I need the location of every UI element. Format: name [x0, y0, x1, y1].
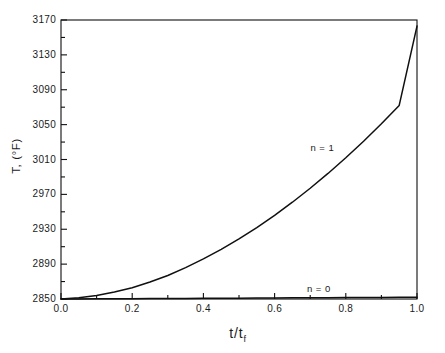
- plot-frame-rect: [61, 20, 417, 299]
- x-axis-title: t/tf: [178, 325, 298, 344]
- x-tick-label: 0.6: [255, 303, 295, 314]
- y-tick-label: 3050: [16, 119, 56, 130]
- curve-label: n = 1: [310, 142, 334, 153]
- chart-series-group: [61, 26, 417, 299]
- y-axis-major-ticks: [61, 20, 67, 299]
- x-tick-label: 1.0: [397, 303, 437, 314]
- curve-label: n = 0: [307, 283, 331, 294]
- x-tick-label: 0.0: [41, 303, 81, 314]
- figure-chart: T, (°F) t/tf 285028902930297030103050309…: [0, 0, 445, 353]
- y-tick-label: 3170: [16, 14, 56, 25]
- x-tick-label: 0.4: [183, 303, 223, 314]
- x-tick-label: 0.2: [112, 303, 152, 314]
- y-tick-label: 3130: [16, 49, 56, 60]
- y-tick-label: 3090: [16, 84, 56, 95]
- x-tick-label: 0.8: [326, 303, 366, 314]
- top-edge-scan-artifact: [300, 0, 445, 8]
- chart-plot-area: [0, 0, 445, 353]
- y-tick-label: 2930: [16, 223, 56, 234]
- y-tick-label: 2890: [16, 258, 56, 269]
- plot-frame: [61, 20, 417, 299]
- y-tick-label: 3010: [16, 154, 56, 165]
- series-curve-1: [61, 26, 417, 299]
- y-tick-label: 2970: [16, 188, 56, 199]
